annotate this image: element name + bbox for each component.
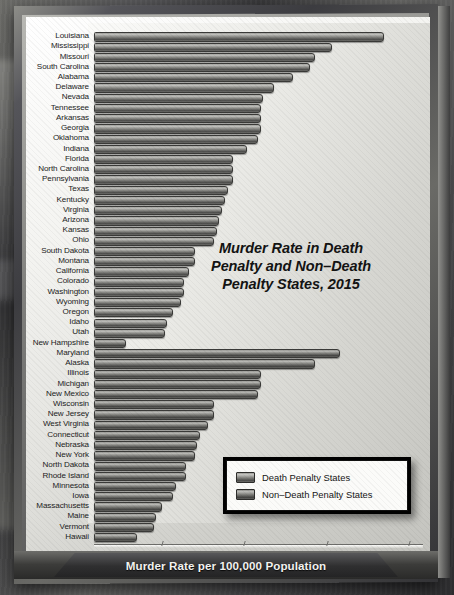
bar-row: Florida bbox=[26, 154, 430, 164]
bar-track bbox=[94, 205, 430, 215]
bar-track bbox=[94, 368, 430, 378]
bar-track bbox=[94, 225, 430, 235]
legend-label-death-penalty: Death Penalty States bbox=[262, 472, 350, 483]
bar-track bbox=[94, 41, 430, 51]
bar-row: Nebraska bbox=[26, 440, 430, 450]
bar-row-label: Arkansas bbox=[26, 113, 89, 123]
bar bbox=[94, 492, 173, 501]
bar-row-label: California bbox=[26, 266, 89, 276]
bar-row: North Carolina bbox=[26, 164, 430, 174]
bar-row: Nevada bbox=[26, 92, 430, 102]
bar-row-label: Maine bbox=[26, 511, 89, 521]
bar-row-label: New Mexico bbox=[26, 389, 89, 399]
bar bbox=[94, 523, 154, 532]
bar-row-label: Georgia bbox=[26, 123, 89, 133]
bar-row-label: Michigan bbox=[26, 379, 89, 389]
bar-track bbox=[94, 378, 430, 388]
bar-row-label: Idaho bbox=[26, 317, 89, 327]
bar-row: Arkansas bbox=[26, 113, 430, 123]
bar-row-label: North Carolina bbox=[26, 164, 89, 174]
x-axis-title: Murder Rate per 100,000 Population bbox=[126, 559, 327, 572]
bar-row-label: Alabama bbox=[26, 72, 89, 82]
bar bbox=[94, 329, 165, 338]
bar-row: Louisiana bbox=[26, 31, 430, 41]
bar-track bbox=[94, 399, 430, 409]
bar-track bbox=[94, 72, 430, 82]
bar-row-label: South Carolina bbox=[26, 62, 89, 72]
bar-row-label: Oklahoma bbox=[26, 133, 89, 143]
bar-row: Pennsylvania bbox=[26, 174, 430, 184]
bar bbox=[94, 380, 261, 389]
bar bbox=[94, 227, 217, 236]
bar-track bbox=[94, 532, 430, 542]
bar-track bbox=[94, 297, 430, 307]
bar-track bbox=[94, 184, 430, 194]
bar-row-label: Oregon bbox=[26, 307, 89, 317]
bar bbox=[94, 451, 195, 460]
bar-row: Mississippi bbox=[26, 41, 430, 51]
bar-row-label: New Jersey bbox=[26, 409, 89, 419]
bar bbox=[94, 278, 184, 287]
chart-legend: Death Penalty States Non–Death Penalty S… bbox=[223, 457, 411, 514]
bar bbox=[94, 63, 310, 72]
bar bbox=[94, 53, 315, 62]
bar-track bbox=[94, 440, 430, 450]
bar-track bbox=[94, 62, 430, 72]
bar-row: New Jersey bbox=[26, 409, 430, 419]
bar-row-label: Rhode Island bbox=[26, 471, 89, 481]
bar-row: Idaho bbox=[26, 317, 430, 327]
bar bbox=[94, 410, 214, 419]
bar-row: Michigan bbox=[26, 378, 430, 388]
bar-track bbox=[94, 430, 430, 440]
bar-row-label: Arizona bbox=[26, 215, 89, 225]
bar bbox=[94, 145, 247, 154]
bar-row-label: Massachusetts bbox=[26, 501, 89, 511]
bar-row-label: South Dakota bbox=[26, 246, 89, 256]
bar bbox=[94, 165, 233, 174]
bar-row-label: Ohio bbox=[26, 235, 89, 245]
bar bbox=[94, 104, 261, 113]
bar bbox=[94, 319, 167, 328]
bar bbox=[94, 359, 315, 368]
bar bbox=[94, 339, 126, 348]
bar bbox=[94, 308, 173, 317]
bar-row-label: Indiana bbox=[26, 144, 89, 154]
bar-row-label: Utah bbox=[26, 327, 89, 337]
chart-title-line-1: Murder Rate in Death bbox=[176, 239, 406, 257]
screenshot-root: LouisianaMississippiMissouriSouth Caroli… bbox=[0, 0, 454, 595]
chart-poster: LouisianaMississippiMissouriSouth Caroli… bbox=[26, 17, 430, 569]
bar-row-label: Vermont bbox=[26, 522, 89, 532]
bar-row-label: Wyoming bbox=[26, 297, 89, 307]
bar-row-label: Alaska bbox=[26, 358, 89, 368]
bar-row-label: Texas bbox=[26, 184, 89, 194]
chart-title-line-2: Penalty and Non–Death bbox=[176, 257, 406, 275]
bar-row-label: Colorado bbox=[26, 276, 89, 286]
bar-row-label: Washington bbox=[26, 287, 89, 297]
bar bbox=[94, 267, 189, 276]
legend-item-non-death-penalty: Non–Death Penalty States bbox=[236, 489, 407, 500]
bar-row: Oklahoma bbox=[26, 133, 430, 143]
legend-label-non-death-penalty: Non–Death Penalty States bbox=[262, 489, 373, 500]
bar-track bbox=[94, 123, 430, 133]
bar bbox=[94, 502, 162, 511]
bar-track bbox=[94, 409, 430, 419]
bar bbox=[94, 288, 184, 297]
bar-row-label: West Virginia bbox=[26, 419, 89, 429]
bar bbox=[94, 206, 222, 215]
bar-track bbox=[94, 215, 430, 225]
bar-row-label: Missouri bbox=[26, 52, 89, 62]
bar-track bbox=[94, 522, 430, 532]
bar-row: Kansas bbox=[26, 225, 430, 235]
bar bbox=[94, 135, 258, 144]
bar-track bbox=[94, 307, 430, 317]
bar bbox=[94, 400, 214, 409]
legend-swatch-non-death-penalty bbox=[236, 489, 255, 500]
bar-row: South Carolina bbox=[26, 62, 430, 72]
frame-right-edge bbox=[438, 6, 450, 578]
bar bbox=[94, 175, 233, 184]
x-axis-line bbox=[94, 544, 423, 548]
bar-row-label: Nebraska bbox=[26, 440, 89, 450]
bar bbox=[94, 114, 261, 123]
bar bbox=[94, 298, 181, 307]
chart-title: Murder Rate in Death Penalty and Non–Dea… bbox=[176, 239, 406, 293]
